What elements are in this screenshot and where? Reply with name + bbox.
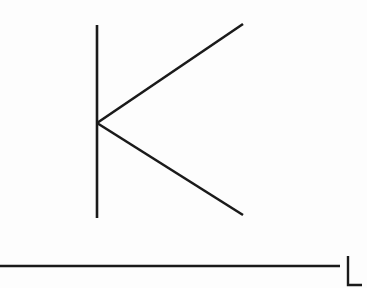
k-lower-diagonal [97, 123, 243, 215]
figure-canvas [0, 0, 367, 288]
l-angle-mark [348, 256, 362, 285]
k-upper-diagonal [97, 24, 243, 123]
line-figure-svg [0, 0, 367, 288]
